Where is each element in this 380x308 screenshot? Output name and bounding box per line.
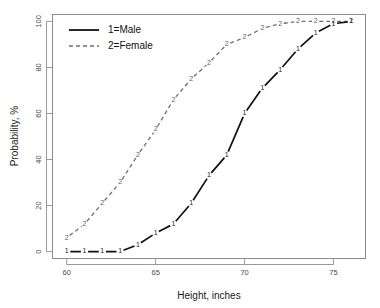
series-points-male: 11111111111111111 [65,17,354,254]
series-line-male [70,22,347,252]
data-point-label: 2 [296,17,300,24]
data-point-label: 1 [349,17,353,24]
data-point-label: 1 [207,171,211,178]
data-point-label: 2 [225,40,229,47]
data-point-label: 1 [296,45,300,52]
data-point-label: 1 [314,29,318,36]
chart-canvas: 020406080100 60657075 22222222222222222 … [0,0,380,308]
x-tick-label: 65 [151,268,159,277]
data-point-label: 1 [136,241,140,248]
data-point-label: 2 [100,199,104,206]
data-point-label: 1 [225,151,229,158]
data-point-label: 1 [83,247,87,254]
data-point-label: 1 [189,199,193,206]
y-tick-label: 80 [34,63,43,71]
x-tick-label: 70 [240,268,248,277]
data-point-label: 1 [243,109,247,116]
data-point-label: 2 [65,234,69,241]
data-point-label: 1 [171,220,175,227]
data-point-label: 2 [118,178,122,185]
series-line-female [70,21,348,235]
data-point-label: 1 [332,20,336,27]
data-point-label: 1 [118,247,122,254]
data-point-label: 2 [154,125,158,132]
data-point-label: 2 [83,220,87,227]
data-point-label: 2 [314,17,318,24]
legend-label-female: 2=Female [108,40,153,51]
legend-label-male: 1=Male [108,24,142,35]
data-point-label: 2 [243,33,247,40]
data-point-label: 1 [278,66,282,73]
x-tick-label: 60 [63,268,71,277]
legend: 1=Male 2=Female [69,24,153,51]
y-tick-label: 20 [34,201,43,209]
x-axis-title: Height, inches [177,290,240,301]
plot-frame [53,15,366,259]
data-point-label: 2 [260,24,264,31]
data-point-label: 2 [207,59,211,66]
x-tick-label: 75 [329,268,337,277]
y-tick-label: 60 [34,109,43,117]
y-axis: 020406080100 [34,15,53,254]
data-point-label: 2 [189,75,193,82]
y-tick-label: 100 [34,15,43,28]
data-point-label: 1 [65,247,69,254]
x-axis: 60657075 [63,259,338,278]
data-point-label: 2 [136,151,140,158]
y-tick-label: 40 [34,155,43,163]
data-point-label: 1 [260,84,264,91]
data-point-label: 1 [100,247,104,254]
chart-container: 020406080100 60657075 22222222222222222 … [0,0,380,308]
y-axis-title: Probability, % [9,106,20,167]
data-point-label: 2 [171,96,175,103]
data-point-label: 2 [278,20,282,27]
data-point-label: 1 [154,229,158,236]
y-tick-label: 0 [34,250,43,254]
